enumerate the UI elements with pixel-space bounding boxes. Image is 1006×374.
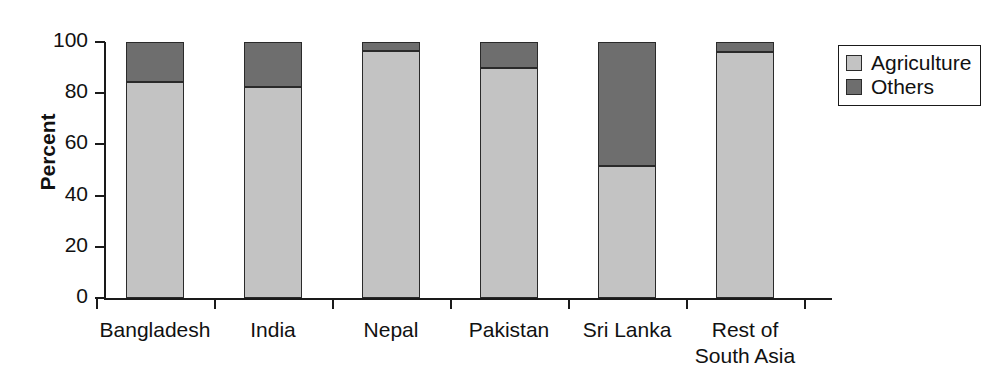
x-axis-tick: [568, 299, 570, 309]
bar-segment-others: [126, 42, 184, 82]
bar-segment-others: [716, 42, 774, 52]
bar-nepal: [362, 42, 420, 298]
bar-segment-agriculture: [480, 68, 538, 298]
bar-segment-agriculture: [362, 51, 420, 298]
legend-swatch-agriculture: [846, 55, 862, 71]
x-axis-tick: [214, 299, 216, 309]
y-axis-tick-label: 80: [65, 79, 88, 103]
x-axis-tick: [804, 299, 806, 309]
x-axis-tick: [686, 299, 688, 309]
bar-bangladesh: [126, 42, 184, 298]
bar-rest-of-south-asia: [716, 42, 774, 298]
legend-item-others: Others: [846, 75, 971, 99]
legend-swatch-others: [846, 79, 862, 95]
y-axis-tick: 40: [95, 195, 105, 197]
y-axis-tick-label: 40: [65, 182, 88, 206]
legend-item-agriculture: Agriculture: [846, 51, 971, 75]
y-axis-tick: 20: [95, 246, 105, 248]
chart-legend: Agriculture Others: [838, 45, 981, 106]
x-axis-tick: [450, 299, 452, 309]
y-axis-line: [104, 42, 106, 299]
bar-segment-agriculture: [716, 52, 774, 298]
x-axis-tick: [332, 299, 334, 309]
y-axis-tick: 100: [95, 41, 105, 43]
bar-segment-agriculture: [126, 82, 184, 298]
bar-segment-agriculture: [598, 166, 656, 298]
bar-pakistan: [480, 42, 538, 298]
legend-label-others: Others: [871, 75, 934, 99]
x-axis-tick: [96, 299, 98, 309]
bar-sri-lanka: [598, 42, 656, 298]
y-axis-tick-label: 60: [65, 130, 88, 154]
stacked-bar-chart: Percent 020406080100BangladeshIndiaNepal…: [0, 0, 1006, 374]
y-axis-tick-label: 0: [76, 284, 88, 308]
plot-area: 020406080100BangladeshIndiaNepalPakistan…: [104, 42, 820, 298]
y-axis-tick: 60: [95, 143, 105, 145]
y-axis-tick-label: 20: [65, 233, 88, 257]
bar-segment-others: [362, 42, 420, 51]
y-axis-title: Percent: [36, 82, 60, 222]
y-axis-tick: 80: [95, 92, 105, 94]
bar-india: [244, 42, 302, 298]
y-axis-tick-label: 100: [53, 28, 88, 52]
legend-label-agriculture: Agriculture: [871, 51, 971, 75]
x-axis-label: Rest of South Asia: [670, 317, 820, 369]
bar-segment-agriculture: [244, 87, 302, 298]
bar-segment-others: [598, 42, 656, 166]
bar-segment-others: [244, 42, 302, 87]
bar-segment-others: [480, 42, 538, 68]
